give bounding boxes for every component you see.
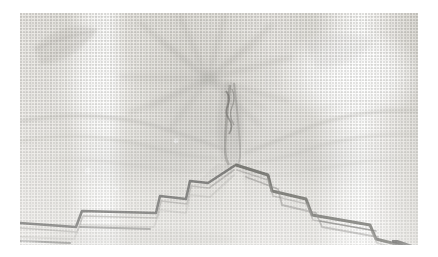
page-root: [0, 0, 438, 257]
lower-fade: [20, 13, 418, 245]
photograph: [20, 13, 418, 245]
